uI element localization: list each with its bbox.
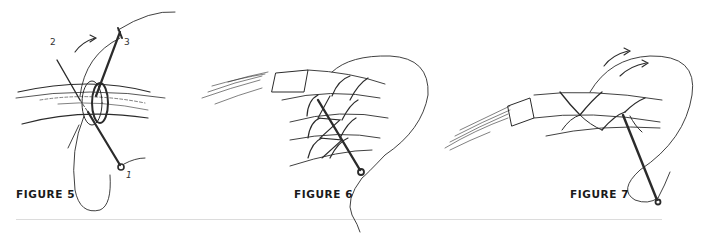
step-number-2: 2: [50, 37, 56, 47]
step-number-3: 3: [124, 37, 130, 47]
figure-5-caption: FIGURE 5: [16, 188, 75, 200]
figure-7-caption: FIGURE 7: [570, 188, 629, 200]
figure-7-illustration: [430, 0, 712, 246]
figure-6-illustration: [190, 0, 430, 246]
figure-7-panel: FIGURE 7: [430, 0, 712, 246]
figure-6-panel: FIGURE 6: [190, 0, 430, 246]
figure-5-panel: 2 3 1 FIGURE 5: [0, 0, 190, 246]
figure-6-caption: FIGURE 6: [294, 188, 353, 200]
step-number-1: 1: [126, 170, 132, 180]
figure-5-illustration: [0, 0, 190, 246]
